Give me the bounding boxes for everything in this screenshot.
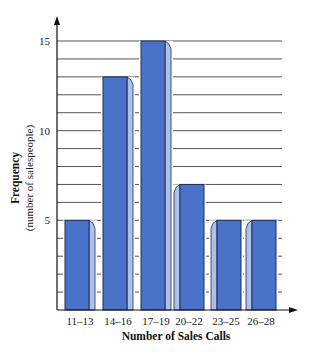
bar-front [141, 41, 165, 310]
bar [172, 184, 206, 310]
bar-side [89, 220, 95, 310]
bar-side [127, 77, 133, 310]
x-tick-label: 14–16 [104, 315, 132, 327]
y-axis-title: Frequency [9, 152, 22, 204]
histogram-chart: 51015 11–1314–1617–1920–2223–2526–28 Num… [0, 0, 311, 358]
y-tick-label: 10 [39, 125, 51, 137]
bar-side [174, 184, 180, 310]
x-tick-label: 26–28 [247, 315, 275, 327]
x-tick-label: 11–13 [66, 315, 94, 327]
bar [101, 77, 135, 310]
x-tick-label: 20–22 [175, 315, 203, 327]
y-axis-arrow-icon [54, 16, 60, 25]
bar-front [180, 184, 204, 310]
x-axis-arrow-icon [289, 307, 298, 313]
y-tick-labels: 51015 [39, 35, 51, 226]
bar-side [165, 41, 171, 310]
bar [139, 41, 173, 310]
bar-side [246, 220, 252, 310]
y-tick-label: 5 [45, 214, 51, 226]
bar-side [211, 220, 217, 310]
bar-front [103, 77, 127, 310]
bar-front [65, 220, 89, 310]
x-tick-label: 17–19 [142, 315, 170, 327]
bar [209, 220, 243, 310]
x-axis-title: Number of Sales Calls [122, 330, 231, 342]
bars [63, 41, 278, 310]
y-tick-label: 15 [39, 35, 51, 47]
x-tick-labels: 11–1314–1617–1920–2223–2526–28 [66, 315, 275, 327]
x-tick-label: 23–25 [212, 315, 240, 327]
bar-front [217, 220, 241, 310]
bar [244, 220, 278, 310]
y-axis-subtitle: (number of salespeople) [23, 125, 36, 232]
bar [63, 220, 97, 310]
bar-front [252, 220, 276, 310]
